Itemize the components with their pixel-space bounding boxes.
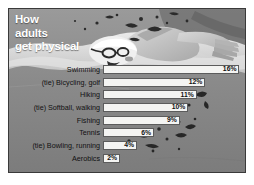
bar: 10% [103, 103, 188, 112]
bar-track: 12% [103, 78, 245, 87]
bar-track: 10% [103, 103, 245, 112]
bar: 11% [103, 90, 197, 99]
bar-track: 16% [103, 65, 245, 74]
bar-category-label: Aerobics [9, 154, 103, 163]
bar-category-label: Hiking [9, 90, 103, 99]
bar-row: Swimming16% [9, 63, 245, 76]
infographic-panel: How adults get physical Swimming16%(tie)… [8, 8, 246, 173]
bar-row: (tie) Bicycling, golf12% [9, 76, 245, 89]
title-line-3: get physical [15, 40, 135, 54]
bar-category-label: (tie) Softball, walking [9, 103, 103, 112]
bar: 9% [103, 116, 180, 125]
page-title: How adults get physical [15, 13, 135, 54]
bar-track: 9% [103, 116, 245, 125]
title-line-2: adults [15, 27, 135, 41]
bar-value-label: 6% [141, 129, 153, 137]
bar-category-label: Swimming [9, 65, 103, 74]
bar-value-label: 9% [167, 116, 179, 124]
bar-value-label: 11% [181, 91, 196, 99]
bar: 16% [103, 65, 239, 74]
bar-category-label: (tie) Bicycling, golf [9, 78, 103, 87]
bar: 4% [103, 141, 137, 150]
title-line-1: How [15, 13, 135, 27]
bar-track: 2% [103, 154, 245, 163]
bar-value-label: 10% [172, 103, 188, 111]
bar-value-label: 4% [124, 141, 136, 149]
bar-category-label: Fishing [9, 116, 103, 125]
bar-value-label: 16% [223, 65, 239, 73]
bar-row: (tie) Bowling, running4% [9, 139, 245, 152]
bar-row: Hiking11% [9, 88, 245, 101]
bar-row: (tie) Softball, walking10% [9, 101, 245, 114]
bar-category-label: Tennis [9, 128, 103, 137]
bar-track: 11% [103, 90, 245, 99]
bar-value-label: 12% [189, 78, 205, 86]
bar-row: Fishing9% [9, 114, 245, 127]
bar-chart: Swimming16%(tie) Bicycling, golf12%Hikin… [9, 63, 245, 172]
bar-track: 6% [103, 128, 245, 137]
bar-row: Tennis6% [9, 126, 245, 139]
bar-track: 4% [103, 141, 245, 150]
bar: 6% [103, 128, 154, 137]
bar-category-label: (tie) Bowling, running [9, 141, 103, 150]
bar: 12% [103, 78, 205, 87]
bar-row: Aerobics2% [9, 152, 245, 165]
bar: 2% [103, 154, 120, 163]
bar-value-label: 2% [107, 154, 119, 162]
